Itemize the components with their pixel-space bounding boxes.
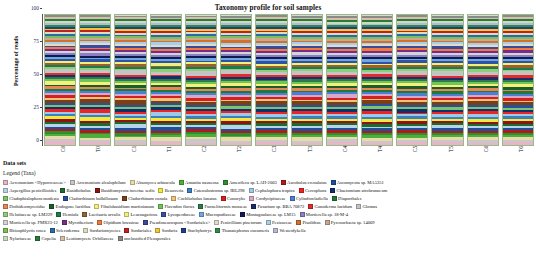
legend-item[interactable]: Rhizophlyctis rosea: [3, 228, 46, 233]
legend-item[interactable]: Cylindrocladiella: [290, 196, 328, 201]
stacked-bar[interactable]: [150, 14, 182, 146]
legend-item[interactable]: Catenulostroma sp. IBL298: [187, 188, 244, 193]
legend-item[interactable]: Acremonium alcalophilum: [70, 180, 126, 185]
legend-item[interactable]: Cercophora: [299, 188, 327, 193]
legend-label: Basidiobolus: [67, 188, 91, 193]
legend-item[interactable]: Chaetomium atrobrunneum: [330, 188, 387, 193]
legend-label: Cochliobolus lunatus: [178, 196, 217, 201]
legend-item[interactable]: Sordariomycetes: [83, 228, 120, 233]
bar-column[interactable]: [396, 14, 428, 146]
x-axis-labels: C0T0C1T1C2T2C3T3C4T4C5T5C6T6: [44, 147, 534, 169]
bar-column[interactable]: [467, 14, 499, 146]
bar-column[interactable]: [220, 14, 252, 146]
legend-item[interactable]: Myrothecium: [62, 220, 93, 225]
legend-item[interactable]: Stachybotrys: [181, 228, 211, 233]
legend-label: Cladophialophora modesta: [9, 196, 58, 201]
legend-item[interactable]: Leucoagaricus: [124, 212, 157, 217]
legend-item[interactable]: Copelia: [35, 236, 56, 241]
bar-column[interactable]: [255, 14, 287, 146]
legend-item[interactable]: Mortierella sp. FMR23-12: [3, 220, 58, 225]
legend-item[interactable]: Leotiomycete Orbiliaceae: [60, 236, 114, 241]
legend-item[interactable]: Thanatephorus cucumeris: [215, 228, 269, 233]
bar-column[interactable]: [185, 14, 217, 146]
bar-column[interactable]: [150, 14, 182, 146]
bar-column[interactable]: [502, 14, 534, 146]
legend-item[interactable]: Pezizaceae: [266, 220, 292, 225]
legend-item[interactable]: Pseudoneurospora <Sordariales>: [143, 220, 210, 225]
legend-item[interactable]: Sordaria: [155, 228, 177, 233]
legend-item[interactable]: Glomus: [356, 204, 377, 209]
legend-item[interactable]: Macropodiaceae: [199, 212, 236, 217]
legend-item[interactable]: Scleroderma: [50, 228, 80, 233]
legend-item[interactable]: Amanita nauseosa: [179, 180, 219, 185]
stacked-bar[interactable]: [291, 14, 323, 146]
legend-item[interactable]: Hemiola: [56, 212, 78, 217]
legend-item[interactable]: Laetisaria arvalis: [82, 212, 120, 217]
legend-item[interactable]: Ganoderma lucidum: [308, 204, 352, 209]
stacked-bar[interactable]: [185, 14, 217, 146]
bar-column[interactable]: [431, 14, 463, 146]
legend-item[interactable]: unclassified Pleosporales: [118, 236, 171, 241]
stacked-bar[interactable]: [79, 14, 111, 146]
stacked-bar[interactable]: [467, 14, 499, 146]
stacked-bar[interactable]: [255, 14, 287, 146]
legend-item[interactable]: Conocybe: [221, 196, 246, 201]
legend-item[interactable]: Absonyces arbuscula: [130, 180, 175, 185]
legend-item[interactable]: Xylariaceae: [3, 236, 31, 241]
stacked-bar[interactable]: [396, 14, 428, 146]
legend-item[interactable]: Fusarium sp. BBA 70872: [251, 204, 304, 209]
bar-column[interactable]: [326, 14, 358, 146]
stacked-bar[interactable]: [326, 14, 358, 146]
legend-item[interactable]: Aspergillus penicillioides: [3, 188, 56, 193]
stacked-bar[interactable]: [220, 14, 252, 146]
legend-swatch-icon: [155, 228, 160, 233]
legend-swatch-icon: [300, 212, 305, 217]
legend-swatch-icon: [251, 204, 256, 209]
legend-label: Xylariaceae: [9, 236, 31, 241]
legend-item[interactable]: Diaporthales: [332, 196, 362, 201]
legend-item[interactable]: Sordariales: [124, 228, 151, 233]
bar-column[interactable]: [361, 14, 393, 146]
x-tick-label: T0: [95, 146, 101, 152]
bar-column[interactable]: [44, 14, 76, 146]
legend-swatch-icon: [223, 180, 228, 185]
legend-item[interactable]: Cochliobolus lunatus: [171, 196, 216, 201]
legend-item[interactable]: Dothideomycetidae: [3, 204, 45, 209]
stacked-bar[interactable]: [431, 14, 463, 146]
legend-swatch-icon: [332, 196, 337, 201]
legend-item[interactable]: Westerdykella: [273, 228, 305, 233]
legend-item[interactable]: Flavodon flavus: [158, 204, 194, 209]
legend-item[interactable]: Cladorrhinum cunula: [122, 196, 167, 201]
legend-item[interactable]: Ascobolus crenulatus: [281, 180, 327, 185]
bar-column[interactable]: [114, 14, 146, 146]
bar-column[interactable]: [79, 14, 111, 146]
legend-item[interactable]: Montagnulaceae sp. LM15: [240, 212, 296, 217]
legend-item[interactable]: Basidiobolus: [60, 188, 90, 193]
stacked-bar[interactable]: [44, 14, 76, 146]
legend-item[interactable]: Cladophialophora modesta: [3, 196, 59, 201]
legend-item[interactable]: Basidiomycota incertae sedis: [95, 188, 155, 193]
legend-item[interactable]: Fibulobasidium martinianum: [94, 204, 154, 209]
legend-item[interactable]: Mortierella sp. 18-M-4: [300, 212, 349, 217]
legend-swatch-icon: [179, 180, 184, 185]
legend-item[interactable]: Cladorrhinum bulbillosum: [63, 196, 118, 201]
legend-item[interactable]: Cephalophora tropica: [249, 188, 295, 193]
stacked-bar[interactable]: [502, 14, 534, 146]
legend-item[interactable]: Lycoperdaceae: [161, 212, 195, 217]
legend-item[interactable]: Cordycipitaceae: [249, 196, 285, 201]
legend-item[interactable]: Helotiaceae sp. LM229: [3, 212, 52, 217]
legend-item[interactable]: Penicillium pinetorum: [214, 220, 262, 225]
legend-item[interactable]: Beauveria: [158, 188, 183, 193]
legend-item[interactable]: Acremonium <Hypocreaceae>: [3, 180, 66, 185]
legend-item[interactable]: Endogone lactiflua: [49, 204, 90, 209]
legend-item[interactable]: Ameofleca sp. LAH-2003: [223, 180, 277, 185]
stacked-bar[interactable]: [114, 14, 146, 146]
legend-item[interactable]: Ascomycota sp. MA5351: [331, 180, 384, 185]
legend-item[interactable]: Olpidium brassicae: [97, 220, 139, 225]
legend-item[interactable]: Pyrenochaeta sp. 14009: [325, 220, 375, 225]
legend-swatch-icon: [290, 196, 295, 201]
stacked-bar[interactable]: [361, 14, 393, 146]
legend-item[interactable]: Pisolithus: [296, 220, 320, 225]
bar-column[interactable]: [291, 14, 323, 146]
legend-item[interactable]: Funneliformis mosseae: [198, 204, 247, 209]
